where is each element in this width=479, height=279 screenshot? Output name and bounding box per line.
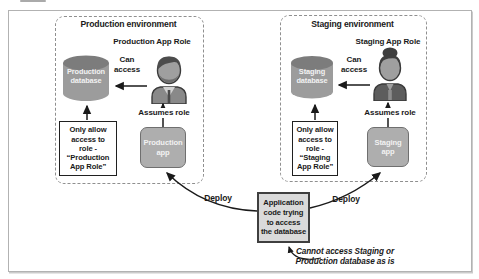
production-policy-note: Only allow access to role - “Production … <box>59 121 117 176</box>
staging-can-access-label: Can access <box>338 55 370 74</box>
production-can-access-label: Can access <box>111 55 143 74</box>
cannot-access-note: Cannot access Staging or Production data… <box>293 247 397 267</box>
staging-app-role-label: Staging App Role <box>343 37 433 47</box>
diagram-canvas: Production database Staging database <box>0 0 479 279</box>
production-app-box: Production app <box>140 127 186 168</box>
cropped-caption-artifact <box>20 0 46 2</box>
deploy-right-label: Deploy <box>324 194 368 204</box>
male-user-icon <box>149 50 189 104</box>
staging-app-box: Staging app <box>367 127 409 167</box>
staging-environment-title: Staging environment <box>280 19 425 29</box>
production-app-role-label: Production App Role <box>107 37 197 47</box>
production-environment-title: Production environment <box>55 19 202 29</box>
staging-user-icon <box>372 47 408 105</box>
production-database-cylinder: Production database <box>62 55 110 102</box>
deploy-left-label: Deploy <box>196 193 240 203</box>
staging-database-label: Staging database <box>290 68 334 86</box>
production-database-label: Production database <box>62 68 110 86</box>
production-user-icon <box>149 50 189 108</box>
staging-database-cylinder: Staging database <box>290 55 334 100</box>
staging-policy-note: Only allow access to role - “Staging App… <box>292 121 338 176</box>
production-assumes-role-label: Assumes role <box>136 108 192 118</box>
application-code-box: Application code trying to access the da… <box>257 192 310 243</box>
female-user-icon <box>372 47 408 101</box>
staging-assumes-role-label: Assumes role <box>362 108 418 118</box>
